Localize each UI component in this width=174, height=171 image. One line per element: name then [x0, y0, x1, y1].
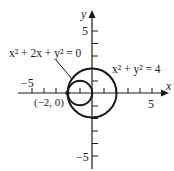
leader-line [56, 60, 72, 79]
y-tick-label-5: 5 [82, 24, 88, 38]
point-label: (−2, 0) [34, 96, 64, 109]
large-circle-equation: x² + y² = 4 [112, 63, 161, 76]
point-neg2-0 [65, 91, 69, 95]
coordinate-plane: y x 5 −5 −5 5 (−2, 0) x² + 2x + y² = 0 x… [0, 0, 174, 171]
x-tick-label-5: 5 [148, 97, 154, 111]
y-axis-label: y [80, 7, 87, 21]
y-axis-arrow-icon [89, 10, 96, 18]
y-tick-label-neg5: −5 [76, 150, 89, 164]
small-circle-equation: x² + 2x + y² = 0 [9, 47, 82, 60]
x-axis-label: x [165, 79, 172, 93]
x-tick-label-neg5: −5 [21, 76, 34, 90]
